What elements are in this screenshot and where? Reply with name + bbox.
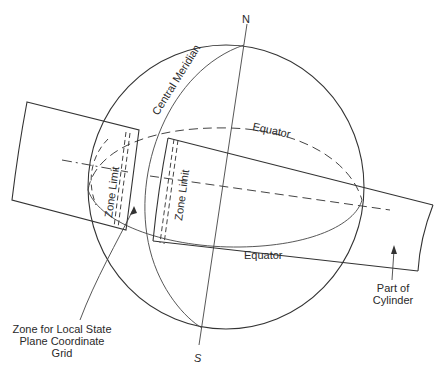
zone-caption-line2: Plane Coordinate (19, 335, 104, 347)
cylinder-caption-line1: Part of (377, 282, 410, 294)
south-label: S (194, 352, 202, 364)
equator-top-label: Equator (252, 120, 293, 140)
equator-bottom-label: Equator (244, 249, 283, 261)
cylinder-arrow-line (392, 250, 394, 280)
north-label: N (242, 13, 250, 25)
cylinder-left-piece (12, 102, 139, 230)
cylinder-bottom-edge (153, 241, 418, 271)
central-meridian-label: Central Meridian (150, 42, 203, 117)
zone-arrow-head (130, 206, 137, 215)
cylinder-top-edge (168, 138, 433, 205)
zone-caption-line3: Grid (52, 347, 73, 359)
zone-limit-right-label: Zone Limit (172, 169, 191, 222)
zone-caption-line1: Zone for Local State (12, 323, 111, 335)
equator-back-dashed (88, 128, 362, 200)
cylinder-caption-line2: Cylinder (373, 294, 414, 306)
polar-axis (199, 24, 247, 345)
transverse-mercator-diagram: N S Central Meridian Equator Equator Zon… (0, 0, 442, 370)
zone-limit-right-line-b (160, 139, 174, 243)
zone-arrow-line (80, 210, 133, 320)
cylinder-left-end (153, 138, 168, 241)
cylinder-arrow-head (391, 245, 397, 254)
cylinder-right-end (418, 205, 433, 271)
